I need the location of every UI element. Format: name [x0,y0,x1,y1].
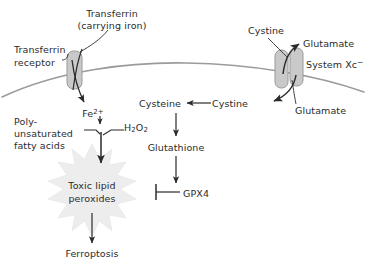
arrow-pufa-to-reaction [84,130,100,134]
cystine-inside-label: Cystine [212,98,248,110]
cystine-outside-label: Cystine [248,25,284,37]
ferroptosis-label: Ferroptosis [65,248,118,260]
fe2-label: Fe2+ [82,107,104,119]
h2o2-label: H2O2 [124,122,148,137]
transferrin-receptor-label-line2: receptor [14,57,55,69]
transferrin-receptor-label-line1: Transferrin [14,44,66,56]
transferrin-label: Transferrin [86,8,138,20]
pufa-label-line2: unsaturated [14,128,73,140]
inhibition-gpx4-to-toxic-lipid [156,184,180,200]
glutamate-outside-label: Glutamate [303,38,354,50]
transferrin-receptor-icon [67,49,82,90]
pufa-label-line3: fatty acids [14,140,65,152]
glutamate-inside-label: Glutamate [295,105,346,117]
arrow-h2o2-to-reaction [103,130,124,135]
pufa-label-line1: Poly- [14,116,37,128]
glutathione-label: Glutathione [148,142,205,154]
toxic-lipid-peroxides-label-line1: Toxic lipid [68,180,115,192]
ferroptosis-diagram: Transferrin (carrying iron) Transferrin … [0,0,366,276]
transferrin-carrying-iron-label: (carrying iron) [77,20,146,32]
toxic-lipid-peroxides-label-line2: peroxides [68,193,115,205]
gpx4-label: GPX4 [183,188,209,200]
leader-transferrin [80,30,108,52]
system-xc-label: System Xc− [306,57,363,70]
cysteine-label: Cysteine [139,98,181,110]
